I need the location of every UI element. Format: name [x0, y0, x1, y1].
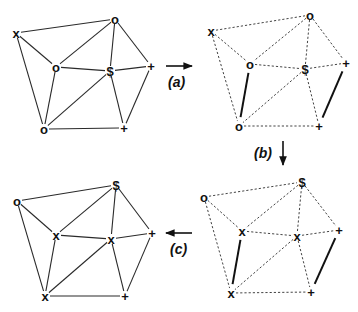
graph-node: x: [40, 289, 50, 304]
graph-edge: [112, 244, 124, 291]
graph-edge: [46, 240, 55, 291]
graph-edge: [205, 202, 229, 288]
graph-node: o: [245, 57, 255, 72]
graph-panel-top-right: xoo$+o+: [206, 8, 351, 134]
graph-edge: [302, 231, 334, 236]
graph-edge: [115, 67, 146, 71]
node-symbol: x: [107, 232, 115, 247]
graph-edge: [255, 64, 300, 68]
node-symbol: o: [200, 190, 208, 205]
step-label-c: (c): [170, 241, 187, 257]
graph-edge: [215, 34, 246, 61]
graph-node: +: [334, 223, 344, 238]
graph-edge: [247, 231, 292, 235]
graph-edge: [305, 186, 336, 226]
node-symbol: o: [246, 57, 254, 72]
node-symbol: +: [335, 223, 343, 238]
node-symbol: o: [13, 194, 21, 209]
transformation-arrows: (a)(b)(c): [166, 66, 283, 257]
graph-node: +: [119, 121, 129, 136]
graph-edge: [18, 206, 43, 291]
node-symbol: o: [40, 122, 48, 137]
graph-edge: [21, 204, 52, 231]
node-symbol: o: [235, 119, 243, 134]
graph-node: $: [111, 178, 121, 193]
graph-edge-highlighted: [241, 73, 249, 117]
graph-edge: [17, 38, 42, 124]
node-symbol: $: [298, 175, 306, 190]
node-symbol: +: [120, 121, 128, 136]
graph-edge: [313, 19, 343, 59]
graph-edge: [110, 24, 114, 66]
graph-node: +: [306, 285, 316, 300]
graph-edge: [49, 128, 119, 129]
graph-node: +: [341, 56, 351, 71]
graph-node: x: [226, 286, 236, 301]
graph-edge: [60, 22, 111, 64]
graph-node: o: [110, 12, 120, 27]
node-symbol: x: [238, 224, 246, 239]
graph-edge: [297, 187, 301, 231]
node-symbol: +: [342, 56, 350, 71]
graph-edge: [306, 74, 318, 121]
graph-edge: [61, 67, 105, 70]
graph-node: o: [234, 119, 244, 134]
node-symbol: x: [227, 286, 235, 301]
node-symbol: $: [301, 62, 309, 77]
graph-edge: [48, 74, 106, 125]
step-label-a: (a): [168, 74, 185, 90]
node-symbol: +: [121, 289, 129, 304]
graph-edge: [49, 242, 107, 292]
graph-edge: [305, 20, 309, 64]
graph-node: +: [147, 226, 157, 241]
graph-edge: [216, 16, 305, 30]
graph-edge: [21, 20, 110, 33]
graph-node: o: [39, 122, 49, 137]
graph-node: x: [106, 232, 116, 247]
graph-node: $: [105, 64, 115, 79]
graph-edge: [236, 292, 306, 293]
graph-node: x: [292, 229, 302, 244]
graph-edge: [212, 36, 237, 121]
graph-node: +: [314, 119, 324, 134]
graph-edge: [235, 239, 293, 289]
graph-edge: [243, 72, 301, 122]
graph-node: x: [51, 228, 61, 243]
node-symbol: x: [41, 289, 49, 304]
graph-node: $: [300, 62, 310, 77]
node-symbol: o: [111, 12, 119, 27]
graph-edge: [254, 18, 306, 61]
graph-node: o: [12, 194, 22, 209]
node-symbol: x: [207, 24, 215, 39]
node-symbol: +: [148, 226, 156, 241]
graph-edge: [111, 76, 123, 123]
graph-edge: [61, 235, 106, 238]
graph-edge: [126, 71, 149, 124]
graph-node: x: [11, 26, 21, 41]
graph-node: +: [146, 59, 156, 74]
node-symbol: +: [147, 59, 155, 74]
node-symbol: +: [315, 119, 323, 134]
node-symbol: $: [106, 64, 114, 79]
graph-edge: [119, 189, 149, 229]
node-symbol: $: [112, 178, 120, 193]
graph-node: +: [120, 289, 130, 304]
graph-edge: [116, 234, 147, 239]
graph-edge: [20, 36, 52, 64]
graph-edge: [246, 185, 298, 228]
graph-panel-bottom-right: o$xx+x+: [199, 175, 344, 301]
node-symbol: x: [52, 228, 60, 243]
graph-node: x: [237, 224, 247, 239]
graph-panels: xoo$+o+xoo$+o+o$xx+x+o$xx+x+: [11, 8, 351, 304]
graph-node: o: [51, 60, 61, 75]
arrow-a: (a): [166, 66, 192, 90]
graph-node: o: [199, 190, 209, 205]
graph-edge: [45, 72, 55, 124]
graph-transformation-diagram: xoo$+o+xoo$+o+o$xx+x+o$xx+x+ (a)(b)(c): [0, 0, 358, 312]
graph-edge: [118, 23, 148, 62]
graph-edge: [208, 200, 239, 227]
step-label-b: (b): [254, 145, 272, 161]
graph-edge: [127, 238, 150, 292]
graph-panel-bottom-left: o$xx+x+: [12, 178, 157, 304]
node-symbol: x: [12, 26, 20, 41]
